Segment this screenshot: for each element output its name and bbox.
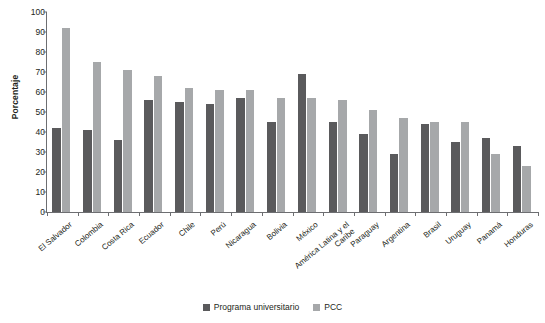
legend-label: PCC [324, 302, 342, 312]
bar [451, 142, 460, 212]
x-axis-tick-mark [108, 212, 109, 216]
bar [83, 130, 92, 212]
bar [461, 122, 470, 212]
bar-group [52, 12, 70, 212]
x-axis-tick-mark [231, 212, 232, 216]
bar [359, 134, 368, 212]
bar [154, 76, 163, 212]
x-axis-tick-mark [446, 212, 447, 216]
x-axis-tick-mark [200, 212, 201, 216]
bar-group [513, 12, 531, 212]
bar [277, 98, 286, 212]
bar [298, 74, 307, 212]
bar-group [267, 12, 285, 212]
x-axis-tick-mark [323, 212, 324, 216]
bar [267, 122, 276, 212]
x-axis-tick-mark [139, 212, 140, 216]
bar [175, 102, 184, 212]
y-axis-tick-mark [43, 132, 47, 133]
bar [513, 146, 522, 212]
y-axis-tick-mark [43, 112, 47, 113]
bar [93, 62, 102, 212]
x-axis-tick-mark [415, 212, 416, 216]
x-axis-tick-mark [293, 212, 294, 216]
bar-group [83, 12, 101, 212]
bar-group [451, 12, 469, 212]
bar [399, 118, 408, 212]
legend-swatch [313, 304, 320, 311]
x-axis-tick-mark [47, 212, 48, 216]
y-axis-tick-mark [43, 152, 47, 153]
x-axis-tick-mark [507, 212, 508, 216]
bar-group [144, 12, 162, 212]
y-axis-tick-mark [43, 32, 47, 33]
bar [123, 70, 132, 212]
bar [307, 98, 316, 212]
x-axis-tick-mark [385, 212, 386, 216]
bar-group [206, 12, 224, 212]
bar-group [421, 12, 439, 212]
x-axis-tick-mark [262, 212, 263, 216]
x-axis-tick-mark [170, 212, 171, 216]
bar [430, 122, 439, 212]
x-axis-tick-mark [477, 212, 478, 216]
bar-group [236, 12, 254, 212]
bar [522, 166, 531, 212]
y-axis-tick-mark [43, 72, 47, 73]
bar [185, 88, 194, 212]
bar-group [390, 12, 408, 212]
bar [369, 110, 378, 212]
bar-group [329, 12, 347, 212]
bar [62, 28, 71, 212]
x-axis-tick-mark [78, 212, 79, 216]
bar [338, 100, 347, 212]
bar [236, 98, 245, 212]
bar [215, 90, 224, 212]
bar-group [175, 12, 193, 212]
plot-area [47, 12, 538, 212]
bar [390, 154, 399, 212]
bar-group [114, 12, 132, 212]
bar [329, 122, 338, 212]
bar [482, 138, 491, 212]
legend-item: Programa universitario [203, 302, 300, 312]
chart-legend: Programa universitarioPCC [0, 302, 545, 312]
legend-item: PCC [313, 302, 342, 312]
y-axis-tick-mark [43, 92, 47, 93]
legend-swatch [203, 304, 210, 311]
x-axis-tick-mark [538, 212, 539, 216]
legend-label: Programa universitario [214, 302, 300, 312]
bar-chart: Porcentaje 0102030405060708090100 El Sal… [0, 0, 545, 323]
y-axis-tick-mark [43, 52, 47, 53]
bar-group [298, 12, 316, 212]
bar [421, 124, 430, 212]
x-axis-tick-mark [354, 212, 355, 216]
y-axis-tick-mark [43, 192, 47, 193]
bar [144, 100, 153, 212]
y-axis-tick-mark [43, 172, 47, 173]
bar [52, 128, 61, 212]
bar-group [359, 12, 377, 212]
bar [246, 90, 255, 212]
bar [114, 140, 123, 212]
y-axis-tick-mark [43, 12, 47, 13]
bar [491, 154, 500, 212]
bar-group [482, 12, 500, 212]
bar [206, 104, 215, 212]
